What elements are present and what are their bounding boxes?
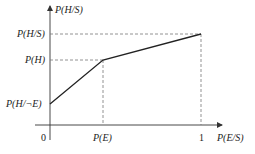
y-tick-ph: P(H) — [25, 55, 45, 65]
graph-svg — [0, 0, 255, 154]
y-tick-phne: P(H/¬E) — [6, 99, 42, 109]
x-tick-one: 1 — [199, 133, 204, 143]
x-tick-pe: P(E) — [93, 133, 112, 143]
x-axis-label: P(E/S) — [217, 133, 244, 143]
y-tick-phs: P(H/S) — [17, 29, 45, 39]
y-axis-label: P(H/S) — [55, 5, 83, 15]
piecewise-line — [50, 34, 201, 104]
x-tick-zero: 0 — [41, 133, 46, 143]
diagram-canvas: P(H/S) P(H/S) P(H) P(H/¬E) 0 P(E) 1 P(E/… — [0, 0, 255, 154]
